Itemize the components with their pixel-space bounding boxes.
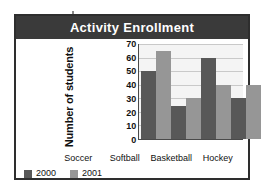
bars-layer — [139, 44, 243, 139]
dark-gray-swatch — [24, 170, 32, 178]
y-axis-tick-label: 70 — [126, 40, 136, 49]
chart-legend: 20002001 — [24, 169, 248, 178]
y-axis-tick-label: 20 — [126, 108, 136, 117]
bar — [186, 98, 201, 139]
legend-entry: 2000 — [24, 169, 56, 178]
x-axis-labels: SoccerSoftballBasketballHockey — [53, 153, 243, 163]
x-axis-tick-label: Soccer — [55, 153, 101, 163]
legend-label: 2001 — [82, 169, 102, 178]
bar — [216, 85, 231, 139]
chart-body: Number of students 706050403020100 — [16, 39, 248, 151]
bar — [156, 51, 171, 139]
y-axis-title-label: Number of students — [63, 47, 75, 147]
bar — [201, 58, 216, 139]
y-axis-ticks: 706050403020100 — [119, 44, 138, 140]
light-gray-swatch — [70, 170, 78, 178]
y-axis-tick-label: 10 — [126, 122, 136, 131]
bar-group — [141, 44, 171, 139]
plot-wrap — [138, 44, 243, 140]
y-axis-title: Number of students — [19, 43, 119, 151]
bar-group — [201, 44, 231, 139]
y-axis-tick-label: 0 — [131, 136, 136, 145]
x-axis-tick-label: Basketball — [148, 153, 194, 163]
bar — [246, 85, 261, 139]
plot-area — [138, 44, 243, 140]
y-axis-tick-label: 50 — [126, 67, 136, 76]
y-axis-tick-label: 60 — [126, 53, 136, 62]
bar — [141, 71, 156, 139]
y-axis-tick-label: 40 — [126, 81, 136, 90]
x-axis-tick-label: Softball — [102, 153, 148, 163]
legend-entry: 2001 — [70, 169, 102, 178]
chart-title-bar: Activity Enrollment — [16, 16, 248, 39]
bar-group — [231, 44, 261, 139]
x-axis-tick-label: Hockey — [195, 153, 241, 163]
y-axis-tick-label: 30 — [126, 94, 136, 103]
bar — [171, 106, 186, 139]
chart-frame: Activity Enrollment Number of students 7… — [14, 14, 250, 180]
bar — [231, 98, 246, 139]
bar-group — [171, 44, 201, 139]
legend-label: 2000 — [36, 169, 56, 178]
page-title: Activity Enrollment — [70, 21, 194, 34]
